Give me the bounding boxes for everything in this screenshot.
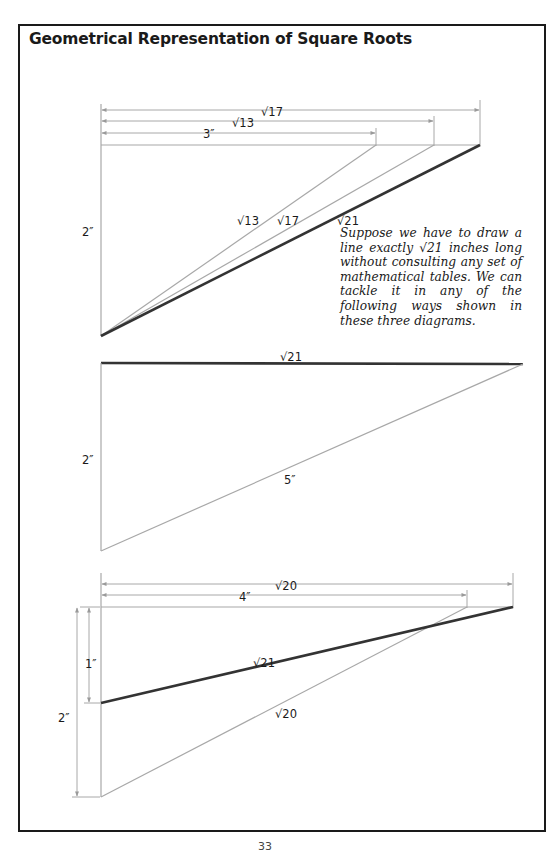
diagram-2: √21 2″ 5″ [82, 350, 523, 551]
page-number: 33 [258, 840, 272, 853]
label-top-sqrt20: √20 [275, 579, 297, 593]
top-side-sqrt21 [101, 363, 523, 364]
hypotenuse-sqrt21 [101, 607, 513, 703]
label-hyp-sqrt21: √21 [253, 656, 275, 670]
label-top-sqrt13: √13 [232, 116, 254, 130]
label-hyp-sqrt20: √20 [275, 707, 297, 721]
hypotenuse-sqrt20 [101, 607, 467, 797]
explanation-text: Suppose we have to draw a line exactly √… [340, 226, 522, 328]
label-top-3in: 3″ [203, 127, 215, 141]
label-top-sqrt21: √21 [280, 350, 302, 364]
hypotenuse-sqrt13 [101, 145, 376, 336]
label-top-4in: 4″ [239, 590, 251, 604]
label-hyp-5in: 5″ [284, 473, 296, 487]
label-top-sqrt17: √17 [261, 105, 283, 119]
label-vertical-2in: 2″ [58, 711, 70, 725]
label-vertical-2in: 2″ [82, 225, 94, 239]
label-vertical-2in: 2″ [82, 453, 94, 467]
hypotenuse-5in [101, 364, 523, 551]
label-vertical-1in: 1″ [85, 657, 97, 671]
label-hyp-sqrt13: √13 [237, 214, 259, 228]
label-hyp-sqrt17: √17 [277, 214, 299, 228]
diagram-3: √20 4″ 1″ 2″ √21 √20 [58, 573, 513, 797]
